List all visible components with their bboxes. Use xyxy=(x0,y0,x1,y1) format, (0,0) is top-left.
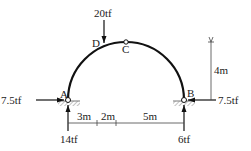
reaction-a-horizontal-label: 7.5tf xyxy=(1,94,22,106)
label-a: A xyxy=(60,88,68,100)
dim-seg1-label: 3m xyxy=(77,110,92,122)
dim-seg3-label: 5m xyxy=(143,110,158,122)
label-d: D xyxy=(92,37,100,49)
dim-seg2-label: 2m xyxy=(101,110,116,122)
arch-diagram: A B C D 20tf 7.5tf 14tf 7.5tf 6tf 4m 3m … xyxy=(0,0,251,151)
reaction-b-horizontal-label: 7.5tf xyxy=(218,94,239,106)
dim-rise-label: 4m xyxy=(214,64,229,76)
label-c: C xyxy=(122,43,129,55)
load-20tf-label: 20tf xyxy=(94,7,112,19)
label-b: B xyxy=(187,87,194,99)
reaction-b-vertical-label: 6tf xyxy=(178,133,191,145)
reaction-a-vertical-label: 14tf xyxy=(60,133,78,145)
